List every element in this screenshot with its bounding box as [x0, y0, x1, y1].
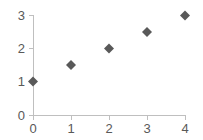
y-tick-label-3: 3: [3, 9, 25, 22]
x-tick-label-2: 2: [98, 122, 120, 135]
x-tick-label-3: 3: [136, 122, 158, 135]
y-tick-label-0: 0: [3, 109, 25, 122]
data-point-marker: [28, 77, 38, 87]
x-tick-label-1: 1: [60, 122, 82, 135]
y-axis-ticks: [29, 16, 34, 116]
data-point-markers: [28, 11, 190, 87]
x-tick-label-0: 0: [22, 122, 44, 135]
data-point-marker: [104, 44, 114, 54]
data-point-marker: [142, 27, 152, 37]
scatter-chart: 0 1 2 3 0 1 2 3 4: [0, 0, 203, 140]
x-axis-ticks: [34, 116, 186, 121]
plot-area: [0, 0, 203, 140]
data-point-marker: [66, 60, 76, 70]
data-point-marker: [180, 11, 190, 21]
x-tick-label-4: 4: [174, 122, 196, 135]
y-tick-label-1: 1: [3, 75, 25, 88]
y-tick-label-2: 2: [3, 42, 25, 55]
